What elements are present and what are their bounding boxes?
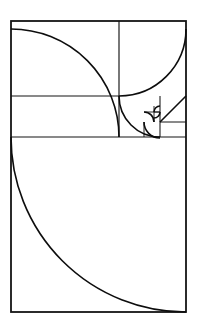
- fibonacci-spiral-figure: Fibonacci Golden Spiral Golden rectangle…: [0, 0, 198, 326]
- subdivision-lines: [11, 21, 186, 137]
- spiral-arc-13: [119, 29, 186, 96]
- golden-spiral: [11, 29, 186, 312]
- outer-golden-rectangle: [11, 21, 186, 312]
- fibonacci-spiral-canvas: [0, 0, 198, 326]
- spiral-arc-1: [154, 106, 160, 112]
- spiral-arc-1: [154, 112, 160, 118]
- spiral-arc-34: [11, 137, 186, 312]
- spiral-arc-2: [144, 112, 154, 122]
- spiral-arc-21: [11, 29, 119, 137]
- spiral-arc-5: [160, 96, 186, 122]
